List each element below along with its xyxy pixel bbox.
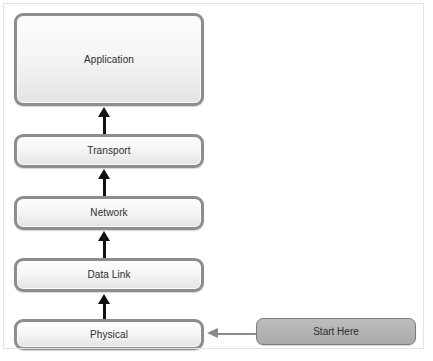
arrow-shaft bbox=[103, 240, 106, 258]
layer-box-application[interactable]: Application bbox=[14, 13, 204, 106]
layer-box-transport[interactable]: Transport bbox=[14, 134, 204, 168]
layer-label-network: Network bbox=[90, 208, 127, 218]
arrow-physical-to-datalink bbox=[98, 294, 111, 319]
arrow-network-to-transport bbox=[98, 169, 111, 196]
layer-label-transport: Transport bbox=[87, 146, 130, 156]
arrow-shaft bbox=[103, 303, 106, 319]
arrow-shaft bbox=[216, 333, 256, 335]
layer-label-physical: Physical bbox=[90, 330, 128, 340]
diagram-canvas: Application Transport Network Data Link … bbox=[0, 0, 433, 361]
figure-frame: Application Transport Network Data Link … bbox=[3, 3, 424, 349]
arrow-shaft bbox=[103, 178, 106, 196]
layer-box-datalink[interactable]: Data Link bbox=[14, 258, 204, 292]
arrow-transport-to-application bbox=[98, 107, 111, 134]
layer-box-network[interactable]: Network bbox=[14, 196, 204, 230]
layer-label-application: Application bbox=[84, 55, 134, 65]
arrow-datalink-to-network bbox=[98, 231, 111, 258]
arrow-start-here-to-physical bbox=[207, 328, 256, 339]
start-here-box[interactable]: Start Here bbox=[256, 318, 416, 345]
layer-box-physical[interactable]: Physical bbox=[14, 319, 204, 350]
layer-label-datalink: Data Link bbox=[87, 270, 130, 280]
start-here-label: Start Here bbox=[313, 327, 359, 337]
arrow-shaft bbox=[103, 116, 106, 134]
